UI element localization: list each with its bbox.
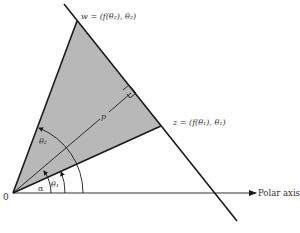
angle-arc-theta1 [61, 172, 65, 193]
polar-axis-label: Polar axis [258, 188, 300, 198]
theta1-label: θ₁ [51, 180, 59, 189]
perpendicular-label: p [101, 112, 106, 121]
point-w-label: w = (f(θ₂), θ₂) [81, 12, 136, 21]
point-z-label: z = (f(θ₁), θ₁) [172, 118, 226, 127]
origin-label: 0 [3, 192, 9, 202]
alpha-label: α [38, 184, 44, 193]
shaded-region [13, 21, 161, 193]
theta2-label: θ₂ [39, 137, 47, 146]
polar-diagram: 0 Polar axis w = (f(θ₂), θ₂) z = (f(θ₁),… [0, 0, 300, 233]
